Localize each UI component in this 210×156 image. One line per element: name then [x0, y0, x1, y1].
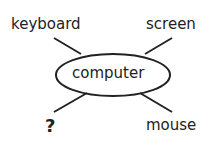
connector-mouse — [140, 93, 172, 112]
connector-unknown — [54, 93, 87, 112]
node-keyboard: keyboard — [11, 17, 81, 32]
node-screen: screen — [146, 17, 196, 32]
center-label: computer — [72, 66, 144, 81]
node-unknown: ? — [45, 117, 55, 135]
connector-keyboard — [54, 38, 81, 54]
node-mouse: mouse — [146, 118, 196, 133]
connector-screen — [145, 38, 172, 54]
